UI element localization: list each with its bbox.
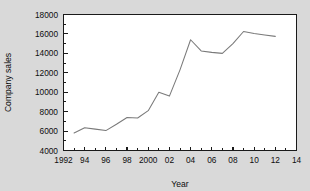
y-axis-tick-label: 14000 — [35, 48, 58, 58]
x-axis-tick-label: 96 — [101, 155, 111, 165]
x-axis-title: Year — [171, 179, 189, 189]
y-axis-tick-label: 10000 — [35, 87, 58, 97]
x-axis-tick-label: 94 — [80, 155, 90, 165]
x-axis-tick-label: 04 — [186, 155, 196, 165]
line-chart: 4000600080001000012000140001600018000199… — [0, 0, 310, 191]
x-axis-tick-label: 98 — [122, 155, 132, 165]
y-axis-tick-label: 16000 — [35, 29, 58, 39]
chart-canvas: 4000600080001000012000140001600018000199… — [0, 0, 310, 191]
y-axis-tick-label: 12000 — [35, 68, 58, 78]
x-axis-tick-label: 06 — [207, 155, 217, 165]
y-axis-tick-label: 8000 — [40, 107, 59, 117]
x-axis-tick-label: 1992 — [54, 155, 73, 165]
x-axis-tick-label: 14 — [292, 155, 302, 165]
y-axis-title: Company sales — [3, 53, 13, 112]
x-axis-tick-label: 08 — [228, 155, 238, 165]
x-axis-tick-label: 02 — [165, 155, 175, 165]
y-axis-tick-label: 18000 — [35, 10, 58, 20]
x-axis-tick-label: 10 — [250, 155, 260, 165]
x-axis-tick-label: 12 — [271, 155, 281, 165]
x-axis-tick-label: 2000 — [139, 155, 158, 165]
y-axis-tick-label: 6000 — [40, 126, 59, 136]
